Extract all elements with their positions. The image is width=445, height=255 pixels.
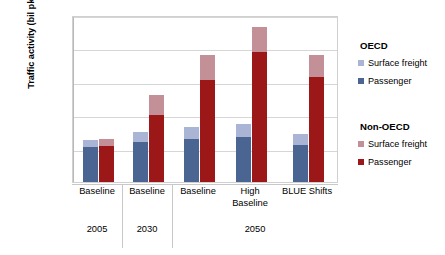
legend-item[interactable]: Surface freight: [358, 58, 445, 68]
x-axis-category-label: Baseline: [172, 186, 224, 198]
bar-non-oecd[interactable]: [99, 139, 114, 182]
x-axis-year-labels: 200520302050: [72, 218, 338, 248]
bar-oecd[interactable]: [236, 124, 251, 182]
bar-segment-oecd-surface-freight[interactable]: [236, 124, 251, 137]
bar-segment-oecd-passenger[interactable]: [83, 147, 98, 182]
legend-swatch-icon: [358, 159, 364, 165]
legend-swatch-icon: [358, 60, 364, 66]
bar-non-oecd[interactable]: [200, 55, 215, 182]
bar-segment-non-oecd-passenger[interactable]: [149, 115, 164, 182]
bar-segment-oecd-passenger[interactable]: [184, 139, 199, 182]
year-group-separator: [122, 184, 123, 218]
bar-segment-non-oecd-passenger[interactable]: [309, 77, 324, 182]
x-axis-year-label: 2050: [172, 224, 338, 234]
bar-pair: [73, 17, 123, 182]
plot-area: [72, 16, 338, 183]
bar-non-oecd[interactable]: [252, 27, 267, 182]
bar-segment-oecd-passenger[interactable]: [133, 142, 148, 182]
bar-group: [225, 17, 277, 182]
x-axis-category-label: Baseline: [72, 186, 122, 198]
bar-segment-oecd-surface-freight[interactable]: [83, 140, 98, 147]
legend-group-title: Non-OECD: [360, 121, 445, 132]
legend-swatch-icon: [358, 141, 364, 147]
bar-group: [173, 17, 225, 182]
legend-item-label: Surface freight: [368, 139, 427, 149]
bar-pair: [277, 17, 339, 182]
bar-segment-non-oecd-surface-freight[interactable]: [309, 55, 324, 77]
bar-pair: [123, 17, 173, 182]
bar-segment-oecd-surface-freight[interactable]: [184, 127, 199, 139]
bar-pair: [225, 17, 277, 182]
bar-non-oecd[interactable]: [149, 95, 164, 182]
legend-group-title: OECD: [360, 40, 445, 51]
x-axis-year-label: 2030: [122, 224, 172, 234]
x-axis-year-label: 2005: [72, 224, 122, 234]
legend-item-label: Surface freight: [368, 58, 427, 68]
bar-oecd[interactable]: [293, 134, 308, 182]
bar-segment-non-oecd-surface-freight[interactable]: [149, 95, 164, 115]
legend-item-label: Passenger: [368, 76, 411, 86]
category-axis-line: [72, 184, 338, 185]
bar-oecd[interactable]: [133, 132, 148, 182]
bar-segment-non-oecd-passenger[interactable]: [99, 146, 114, 182]
x-axis-category-label: Baseline: [122, 186, 172, 198]
bar-group: [123, 17, 173, 182]
y-axis-title-container: Traffic activity (bil pkm and bil tkm): [0, 0, 24, 196]
bar-segment-non-oecd-surface-freight[interactable]: [200, 55, 215, 80]
bar-non-oecd[interactable]: [309, 55, 324, 182]
bar-groups: [73, 17, 337, 182]
legend-swatch-icon: [358, 78, 364, 84]
x-axis-category-labels: BaselineBaselineBaselineHigh BaselineBLU…: [72, 184, 338, 218]
bar-segment-non-oecd-passenger[interactable]: [252, 52, 267, 182]
legend-item[interactable]: Passenger: [358, 157, 445, 167]
bar-oecd[interactable]: [184, 127, 199, 182]
bar-group: [73, 17, 123, 182]
bar-segment-non-oecd-passenger[interactable]: [200, 80, 215, 182]
x-axis-category-label: High Baseline: [224, 186, 276, 209]
chart-figure: Traffic activity (bil pkm and bil tkm) 1…: [0, 0, 445, 255]
legend-item[interactable]: Surface freight: [358, 139, 445, 149]
bar-group: [277, 17, 339, 182]
bar-segment-oecd-surface-freight[interactable]: [293, 134, 308, 146]
y-axis-title: Traffic activity (bil pkm and bil tkm): [26, 0, 36, 106]
bar-segment-oecd-passenger[interactable]: [293, 145, 308, 182]
bar-segment-oecd-passenger[interactable]: [236, 137, 251, 182]
chart-legend: OECDSurface freightPassengerNon-OECDSurf…: [350, 40, 445, 175]
legend-item[interactable]: Passenger: [358, 76, 445, 86]
bar-segment-non-oecd-surface-freight[interactable]: [252, 27, 267, 52]
bar-oecd[interactable]: [83, 140, 98, 182]
x-axis-category-label: BLUE Shifts: [276, 186, 338, 198]
bar-segment-oecd-surface-freight[interactable]: [133, 132, 148, 142]
bar-pair: [173, 17, 225, 182]
bar-segment-non-oecd-surface-freight[interactable]: [99, 139, 114, 147]
year-group-separator: [172, 184, 173, 218]
legend-item-label: Passenger: [368, 157, 411, 167]
